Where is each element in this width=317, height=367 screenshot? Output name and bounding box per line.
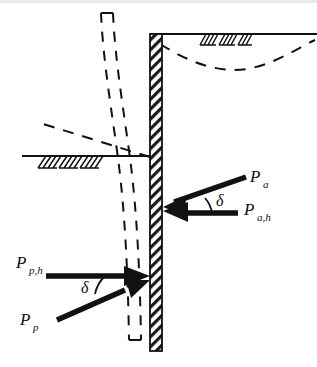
passive-resultant-arrow [57, 280, 150, 320]
label-active-horizontal: P a,h [243, 200, 271, 223]
label-active-resultant: P a [249, 167, 269, 190]
label-angle-active: δ [216, 192, 224, 209]
label-passive-horizontal-subscript: p,h [28, 264, 43, 276]
dashed-failure-line-left [40, 123, 150, 157]
soil-hatch-symbol-right [200, 34, 252, 45]
label-active-horizontal-subscript: a,h [257, 211, 271, 223]
label-passive-resultant-symbol: P [19, 310, 30, 329]
earth-pressure-diagram: P a P a,h P p,h P p δ δ [0, 0, 317, 367]
label-active-horizontal-symbol: P [243, 200, 254, 219]
label-passive-horizontal-symbol: P [15, 253, 26, 272]
scan-edge-strip [0, 0, 317, 3]
label-active-resultant-symbol: P [249, 167, 260, 186]
angle-arc-passive [95, 277, 104, 294]
retaining-wall [150, 34, 162, 351]
label-angle-passive: δ [81, 279, 89, 296]
diagram-canvas: P a P a,h P p,h P p δ δ [0, 0, 317, 367]
soil-hatch-symbol-left [38, 156, 103, 168]
label-active-resultant-subscript: a [263, 178, 269, 190]
label-passive-horizontal: P p,h [15, 253, 43, 276]
label-passive-resultant: P p [19, 310, 39, 333]
label-passive-resultant-subscript: p [32, 321, 39, 333]
